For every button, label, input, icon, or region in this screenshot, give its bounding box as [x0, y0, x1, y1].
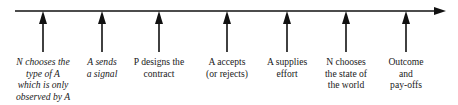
event-label: P designs thecontract — [124, 56, 194, 79]
timeline-arrowhead-icon — [434, 7, 446, 15]
event-label-line: and — [371, 68, 441, 80]
event-arrow-icon — [342, 11, 350, 52]
event-arrow-icon — [402, 11, 410, 52]
event-label-line: contract — [124, 68, 194, 80]
event-label-line: observed by A — [8, 91, 78, 103]
event-arrow-icon — [98, 11, 106, 52]
event-label-line: Outcome — [371, 56, 441, 68]
event-label: Outcomeandpay-offs — [371, 56, 441, 91]
event-arrow-icon — [39, 11, 47, 52]
event-label-line: which is only — [8, 79, 78, 91]
event-label-line: pay-offs — [371, 79, 441, 91]
event-arrow-icon — [223, 11, 231, 52]
event-arrow-icon — [155, 11, 163, 52]
timeline-diagram: N chooses thetype of Awhich is onlyobser… — [0, 0, 458, 105]
event-arrow-icon — [283, 11, 291, 52]
event-label-line: P designs the — [124, 56, 194, 68]
